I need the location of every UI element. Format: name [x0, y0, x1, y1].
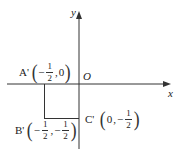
denominator: 2 — [43, 131, 48, 141]
point-c-name: C' — [85, 114, 94, 125]
denominator: 2 — [126, 120, 131, 130]
point-b-label: B' ( − 1 2 , − 1 2 ) — [15, 119, 77, 141]
point-b-name: B' — [15, 125, 24, 136]
numerator: 1 — [62, 120, 69, 131]
open-paren: ( — [27, 119, 33, 141]
point-a-name: A' — [19, 67, 29, 78]
coordinate-plane-diagram: y x O A' ( − 1 2 , 0 ) B' ( − 1 2 , − 1 … — [0, 0, 177, 149]
point-a-y-value: 0 — [59, 67, 65, 78]
origin-label: O — [83, 71, 91, 82]
close-paren: ) — [133, 108, 139, 130]
point-a-label: A' ( − 1 2 , 0 ) — [19, 61, 72, 83]
y-axis-label: y — [71, 7, 76, 18]
open-paren: ( — [32, 61, 38, 83]
point-a-x-fraction: 1 2 — [46, 62, 53, 83]
close-paren: ) — [65, 61, 71, 83]
numerator: 1 — [42, 120, 49, 131]
point-b-y-sign: − — [54, 125, 60, 136]
close-paren: ) — [71, 119, 77, 141]
y-axis-arrow-icon — [76, 11, 82, 19]
point-c-y-sign: − — [117, 114, 123, 125]
point-b-y-fraction: 1 2 — [62, 120, 69, 141]
point-b-x-sign: − — [34, 125, 40, 136]
comma: , — [50, 125, 53, 136]
denominator: 2 — [63, 131, 68, 141]
open-paren: ( — [100, 108, 106, 130]
numerator: 1 — [46, 62, 53, 73]
x-axis-label: x — [168, 88, 173, 99]
point-c-y-fraction: 1 2 — [125, 109, 132, 130]
point-c-label: C' ( 0 , − 1 2 ) — [85, 108, 140, 130]
denominator: 2 — [47, 73, 52, 83]
point-b-x-fraction: 1 2 — [42, 120, 49, 141]
numerator: 1 — [125, 109, 132, 120]
comma: , — [113, 114, 116, 125]
point-c-x-value: 0 — [107, 114, 113, 125]
comma: , — [55, 67, 58, 78]
point-a-x-sign: − — [38, 67, 44, 78]
